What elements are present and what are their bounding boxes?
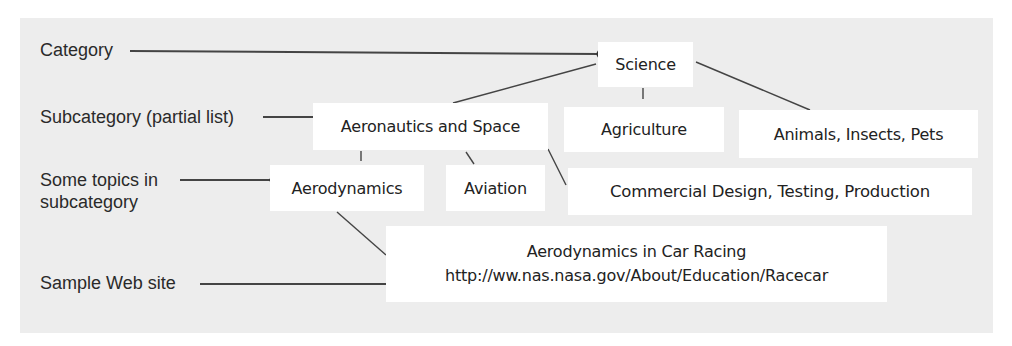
node-aviation: Aviation <box>446 165 545 211</box>
node-aeronautics-space: Aeronautics and Space <box>313 103 548 150</box>
node-commercial-design: Commercial Design, Testing, Production <box>568 168 972 215</box>
node-sample-website: Aerodynamics in Car Racing http://ww.nas… <box>386 226 887 302</box>
legend-topics-line2: subcategory <box>40 192 138 212</box>
node-aerodynamics: Aerodynamics <box>270 165 424 211</box>
legend-topics-line1: Some topics in <box>40 170 158 190</box>
legend-category: Category <box>40 40 113 60</box>
legend-subcategory: Subcategory (partial list) <box>40 107 234 127</box>
website-title: Aerodynamics in Car Racing <box>527 240 747 264</box>
node-animals-insects-pets: Animals, Insects, Pets <box>739 110 978 158</box>
legend-website: Sample Web site <box>40 273 176 293</box>
node-agriculture: Agriculture <box>564 107 724 152</box>
node-science: Science <box>598 42 693 87</box>
website-url: http://ww.nas.nasa.gov/About/Education/R… <box>445 264 828 288</box>
